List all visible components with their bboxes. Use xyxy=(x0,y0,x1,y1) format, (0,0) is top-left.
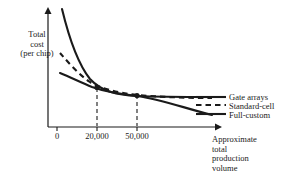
x-axis-label-line-4: volume xyxy=(212,164,286,174)
y-axis-label: Total cost (per chip) xyxy=(8,30,66,59)
series-standard-cell xyxy=(60,53,212,98)
x-axis-label: Approximate total production volume xyxy=(212,135,286,173)
x-tick-label-50000: 50,000 xyxy=(115,131,159,141)
x-tick-label-0: 0 xyxy=(45,131,69,141)
intersection-marker-50000 xyxy=(134,93,139,98)
y-axis-label-line-3: (per chip) xyxy=(8,49,66,59)
figure-container: Total cost (per chip) 0 20,000 50,000 Ap… xyxy=(0,0,288,184)
x-tick-label-20000: 20,000 xyxy=(75,131,119,141)
intersection-marker-20000 xyxy=(94,85,99,90)
legend-label-full-custom: Full-custom xyxy=(229,110,270,120)
